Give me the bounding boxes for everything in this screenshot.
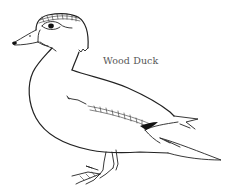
wing-pattern — [67, 96, 158, 130]
duck-feet — [72, 150, 118, 184]
wood-duck-illustration: Wood Duck — [0, 0, 235, 195]
species-label: Wood Duck — [103, 55, 158, 66]
duck-head — [12, 14, 88, 52]
duck-drawing — [0, 0, 235, 195]
